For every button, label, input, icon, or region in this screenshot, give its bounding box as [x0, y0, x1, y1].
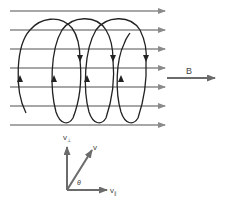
down-arrow-icon — [143, 55, 149, 62]
theta-label: θ — [77, 179, 81, 186]
b-field-indicator: B — [167, 66, 215, 78]
down-arrow-icon — [77, 55, 83, 62]
velocity-components: v⊥ v v∥ θ — [63, 133, 117, 197]
up-arrow-icon — [118, 75, 124, 82]
down-arrow-icon — [110, 55, 116, 62]
v-perp-label: v⊥ — [63, 133, 71, 143]
v-parallel-label: v∥ — [110, 186, 117, 197]
helix-diagram: B v⊥ v v∥ θ — [0, 0, 225, 207]
v-label: v — [93, 143, 97, 152]
helix-trajectory — [18, 19, 146, 123]
b-field-label: B — [186, 66, 192, 76]
